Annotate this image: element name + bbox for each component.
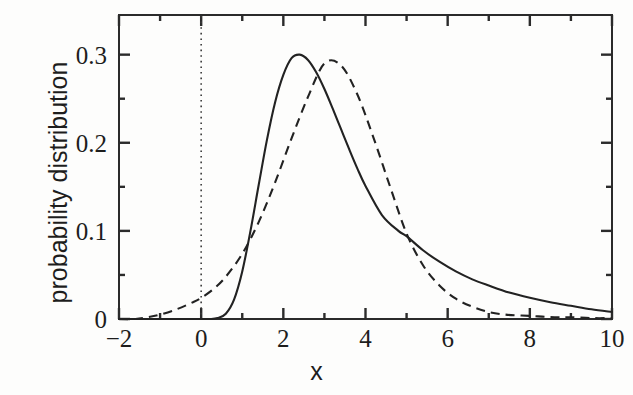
y-tick-label: 0.2 [76, 130, 107, 155]
x-tick-label: 4 [359, 326, 372, 351]
chart-figure: −20246810 00.10.20.3 probability distrib… [0, 0, 633, 395]
x-tick-label: 0 [195, 326, 208, 351]
x-tick-label: 10 [600, 326, 625, 351]
y-axis-title: probability distribution [44, 33, 73, 333]
y-tick-label: 0.3 [76, 42, 107, 67]
y-tick-label: 0.1 [76, 218, 107, 243]
plot-frame [118, 14, 613, 320]
x-tick-label: 6 [441, 326, 454, 351]
y-tick-label: 0 [95, 307, 108, 332]
x-tick-label: −2 [106, 326, 133, 351]
x-tick-label: 2 [277, 326, 290, 351]
x-tick-label: 8 [524, 326, 537, 351]
x-axis-title: x [0, 357, 633, 386]
